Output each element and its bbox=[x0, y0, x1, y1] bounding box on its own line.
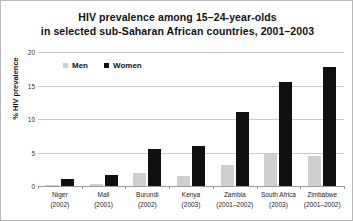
x-tick-country: Zambia bbox=[213, 190, 257, 200]
bar-men bbox=[221, 165, 234, 186]
x-tick-label: Mali(2001) bbox=[82, 190, 126, 209]
bars-layer bbox=[38, 52, 344, 186]
legend-swatch-men bbox=[63, 63, 68, 68]
plot-area bbox=[38, 52, 344, 186]
bar-group bbox=[169, 52, 213, 186]
bar-group bbox=[82, 52, 126, 186]
x-tick-year: (2003) bbox=[169, 200, 213, 210]
x-tick-mark bbox=[125, 186, 126, 189]
x-tick-mark bbox=[344, 186, 345, 189]
bar-group bbox=[300, 52, 344, 186]
bar-men bbox=[177, 176, 190, 186]
bar-men bbox=[90, 184, 103, 186]
legend-swatch-women bbox=[104, 63, 109, 68]
bar-men bbox=[46, 185, 59, 186]
chart-title-line-2: in selected sub-Saharan African countrie… bbox=[1, 24, 353, 38]
x-tick-label: Burundi(2002) bbox=[125, 190, 169, 209]
bar-women bbox=[236, 112, 249, 186]
x-tick-country: Mali bbox=[82, 190, 126, 200]
x-tick-label: Zimbabwe(2001–2002) bbox=[300, 190, 344, 209]
legend-item-men: Men bbox=[63, 61, 88, 70]
x-tick-year: (2002) bbox=[125, 200, 169, 210]
y-tick-label: 5 bbox=[19, 149, 35, 156]
bar-women bbox=[279, 82, 292, 186]
x-tick-year: (2001–2002) bbox=[300, 200, 344, 210]
legend-label-women: Women bbox=[113, 61, 142, 70]
x-tick-mark bbox=[300, 186, 301, 189]
chart-figure: HIV prevalence among 15–24-year-olds in … bbox=[0, 0, 353, 221]
x-tick-country: South Africa bbox=[257, 190, 301, 200]
bar-women bbox=[61, 179, 74, 186]
y-axis-tick-labels: 05101520 bbox=[15, 52, 35, 186]
x-tick-label: Niger(2002) bbox=[38, 190, 82, 209]
legend-label-men: Men bbox=[72, 61, 88, 70]
x-tick-year: (2002) bbox=[38, 200, 82, 210]
x-tick-mark bbox=[82, 186, 83, 189]
bar-women bbox=[323, 67, 336, 186]
chart-legend: Men Women bbox=[63, 61, 142, 70]
y-tick-label: 15 bbox=[19, 82, 35, 89]
x-tick-label: Kenya(2003) bbox=[169, 190, 213, 209]
bar-women bbox=[192, 146, 205, 186]
y-tick-label: 0 bbox=[19, 183, 35, 190]
y-tick-label: 20 bbox=[19, 49, 35, 56]
chart-title: HIV prevalence among 15–24-year-olds in … bbox=[1, 10, 353, 38]
x-tick-country: Niger bbox=[38, 190, 82, 200]
x-axis-line bbox=[38, 186, 344, 187]
x-tick-country: Burundi bbox=[125, 190, 169, 200]
bar-group bbox=[213, 52, 257, 186]
x-tick-mark bbox=[38, 186, 39, 189]
bar-men bbox=[264, 154, 277, 186]
x-tick-mark bbox=[257, 186, 258, 189]
x-tick-label: South Africa(2003) bbox=[257, 190, 301, 209]
x-tick-year: (2003) bbox=[257, 200, 301, 210]
bar-group bbox=[125, 52, 169, 186]
bar-men bbox=[308, 156, 321, 186]
bar-group bbox=[257, 52, 301, 186]
legend-item-women: Women bbox=[104, 61, 142, 70]
x-axis-tick-labels: Niger(2002)Mali(2001)Burundi(2002)Kenya(… bbox=[38, 190, 344, 209]
x-tick-year: (2001–2002) bbox=[213, 200, 257, 210]
x-tick-year: (2001) bbox=[82, 200, 126, 210]
chart-title-line-1: HIV prevalence among 15–24-year-olds bbox=[1, 10, 353, 24]
x-tick-label: Zambia(2001–2002) bbox=[213, 190, 257, 209]
x-tick-country: Kenya bbox=[169, 190, 213, 200]
x-tick-country: Zimbabwe bbox=[300, 190, 344, 200]
bar-men bbox=[133, 173, 146, 186]
y-tick-label: 10 bbox=[19, 116, 35, 123]
x-tick-mark bbox=[169, 186, 170, 189]
bar-women bbox=[148, 149, 161, 186]
bar-women bbox=[105, 175, 118, 186]
bar-group bbox=[38, 52, 82, 186]
x-tick-mark bbox=[213, 186, 214, 189]
